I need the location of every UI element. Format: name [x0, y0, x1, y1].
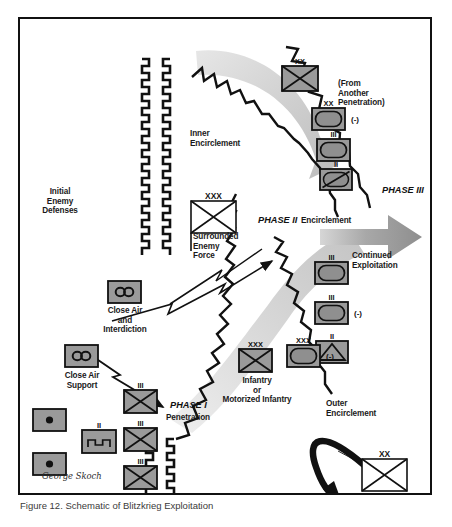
infantry-corps-lower: [239, 349, 272, 372]
surrounded-enemy-force-symbol-echelon: XXX: [205, 191, 222, 201]
label-infantry-or-motorized-infantry: Infantry or Motorized Infantry: [201, 376, 313, 405]
armor-unit-phase2-reduced-echelon: III: [328, 293, 334, 302]
armor-division-echelon: XX: [324, 99, 334, 108]
infantry-regiment-2-echelon: III: [137, 419, 143, 428]
label-close-air-support: Close Air Support: [46, 371, 118, 390]
enemy-defense-line-left: [142, 59, 149, 255]
infantry-regiment-2: [124, 428, 157, 451]
artist-signature: George Skoch: [42, 471, 102, 481]
defender-division-symbol-echelon: XX: [379, 449, 391, 459]
infantry-regiment-3: [124, 466, 157, 489]
engineer-unit: [82, 430, 116, 453]
phase-3-label: PHASE III: [382, 185, 424, 195]
infantry-regiment-1-echelon: III: [137, 381, 143, 390]
infantry-division-top: [282, 66, 318, 91]
infantry-regiment-3-echelon: III: [137, 457, 143, 466]
enemy-defense-line-right: [163, 59, 170, 255]
mountain-unit-echelon: II: [330, 332, 334, 341]
label-initial-enemy-defenses: Initial Enemy Defenses: [26, 187, 94, 216]
label-outer-encirclement: Outer Encirclement: [326, 399, 404, 418]
figure-root: XXXX(-)IIIIIIIIIII(-)IIXXXXXX(-)IIIIIIII…: [0, 0, 452, 527]
armor-unit-phase2-reduced: [315, 302, 348, 324]
label-surrounded-enemy-force: Surrounded Enemy Force: [193, 232, 265, 261]
label-penetration: Penetration: [166, 413, 232, 423]
recon-squadron-inner-echelon: II: [334, 160, 338, 169]
defender-division-symbol: [362, 459, 407, 491]
engineer-unit-echelon: II: [97, 421, 101, 430]
armor-unit-phase2-reduced-reduced-marker: (-): [354, 309, 362, 318]
label-encirclement: Encirclement: [301, 216, 385, 226]
infantry-division-top-echelon: XX: [295, 57, 305, 66]
label-continued-exploitation: Continued Exploitation: [352, 251, 428, 270]
close-air-support-symbol: [65, 345, 98, 367]
phase-1-label: PHASE I: [170, 400, 207, 410]
recon-squadron-inner: [320, 169, 352, 190]
artillery-unit-1: [33, 409, 66, 431]
label-close-air-and-interdiction: Close Air and Interdiction: [88, 306, 162, 335]
armor-unit-phase2-echelon: III: [328, 253, 334, 262]
phase-2-label: PHASE II: [258, 215, 297, 225]
enemy-defense-line-bottom-right: [167, 439, 174, 493]
armor-corps-lower-echelon: XXX: [296, 336, 311, 345]
armor-unit-phase2: [315, 262, 348, 284]
armor-division: [312, 108, 345, 130]
label-from-another-penetration: (From Another Penetration): [338, 79, 420, 108]
label-inner-encirclement: Inner Encirclement: [190, 129, 264, 148]
armor-regiment-inner: [317, 139, 350, 161]
armor-regiment-inner-echelon: III: [330, 130, 336, 139]
figure-caption: Figure 12. Schematic of Blitzkrieg Explo…: [20, 500, 213, 511]
infantry-regiment-1: [124, 390, 157, 413]
armor-corps-lower-reduced-marker: (-): [326, 352, 334, 361]
defenders-break-arrow: [313, 441, 364, 493]
armor-division-reduced-marker: (-): [351, 115, 359, 124]
diagram-frame: XXXX(-)IIIIIIIIIII(-)IIXXXXXX(-)IIIIIIII…: [18, 17, 432, 495]
armor-corps-lower: [287, 345, 320, 367]
infantry-corps-lower-echelon: XXX: [248, 340, 263, 349]
close-air-interdiction-symbol: [108, 281, 141, 303]
